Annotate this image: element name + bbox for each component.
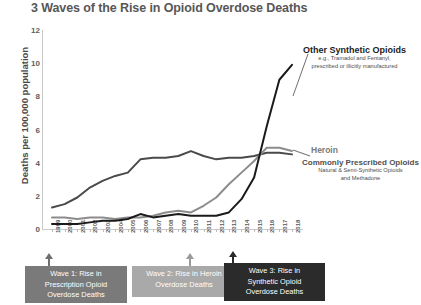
x-tick-mark bbox=[241, 229, 242, 232]
wave-2-banner: Wave 2: Rise in Heroin Overdose Deaths bbox=[132, 266, 236, 297]
y-tick-label: 6 bbox=[18, 125, 40, 134]
wave-2-arrow bbox=[185, 253, 195, 267]
y-axis-ticks: 024681012 bbox=[14, 0, 40, 305]
x-tick-mark bbox=[153, 229, 154, 232]
y-tick-label: 0 bbox=[18, 225, 40, 234]
wave-1-line1: Wave 1: Rise in bbox=[27, 269, 125, 280]
annotation-subtitle-line1: Natural & Semi-Synthetic Opioids bbox=[302, 167, 419, 175]
x-tick-mark bbox=[140, 229, 141, 232]
annotation-title: Commonly Prescribed Opioids bbox=[302, 158, 419, 167]
wave-1-banner: Wave 1: Rise in Prescription Opioid Over… bbox=[25, 266, 127, 303]
opioid-overdose-chart: 3 Waves of the Rise in Opioid Overdose D… bbox=[0, 0, 421, 305]
leader-line-synthetic bbox=[290, 52, 310, 98]
y-tick-label: 8 bbox=[18, 92, 40, 101]
annotation-subtitle-line2: prescribed or illicitly manufactured bbox=[303, 63, 406, 71]
annotation-other-synthetic-opioids: Other Synthetic Opioids e.g., Tramadol a… bbox=[303, 45, 406, 70]
series-lines bbox=[44, 30, 302, 229]
wave-1-arrow bbox=[44, 253, 54, 267]
x-tick-mark bbox=[216, 229, 217, 232]
y-axis-line bbox=[42, 30, 43, 230]
x-tick-mark bbox=[229, 229, 230, 232]
wave-3-line1: Wave 3: Rise in bbox=[226, 266, 323, 277]
annotation-subtitle-line1: e.g., Tramadol and Fentanyl, bbox=[303, 55, 406, 63]
x-tick-mark bbox=[65, 229, 66, 232]
x-tick-mark bbox=[115, 229, 116, 232]
x-tick-mark bbox=[103, 229, 104, 232]
wave-3-line3: Overdose Deaths bbox=[226, 287, 323, 298]
y-tick-label: 12 bbox=[18, 26, 40, 35]
x-tick-mark bbox=[292, 229, 293, 232]
annotation-title: Heroin bbox=[311, 145, 338, 155]
x-tick-mark bbox=[128, 229, 129, 232]
y-tick-label: 10 bbox=[18, 59, 40, 68]
wave-2-line2: Overdose Deaths bbox=[134, 280, 234, 291]
x-tick-mark bbox=[191, 229, 192, 232]
x-tick-mark bbox=[77, 229, 78, 232]
annotation-heroin: Heroin bbox=[311, 145, 338, 155]
plot-area: 1999200020012002200320042005200620072008… bbox=[44, 30, 302, 229]
x-tick-mark bbox=[90, 229, 91, 232]
x-tick-mark bbox=[166, 229, 167, 232]
wave-3-banner: Wave 3: Rise in Synthetic Opioid Overdos… bbox=[224, 263, 325, 301]
wave-2-line1: Wave 2: Rise in Heroin bbox=[134, 269, 234, 280]
annotation-title: Other Synthetic Opioids bbox=[303, 45, 406, 55]
annotation-subtitle-line2: and Methadone bbox=[302, 175, 419, 183]
x-tick-mark bbox=[267, 229, 268, 232]
y-tick-label: 4 bbox=[18, 158, 40, 167]
x-tick-mark bbox=[254, 229, 255, 232]
annotation-commonly-prescribed-opioids: Commonly Prescribed Opioids Natural & Se… bbox=[302, 158, 419, 182]
wave-3-line2: Synthetic Opioid bbox=[226, 277, 323, 288]
x-tick-mark bbox=[279, 229, 280, 232]
wave-1-line2: Prescription Opioid bbox=[27, 280, 125, 291]
x-tick-mark bbox=[204, 229, 205, 232]
x-tick-mark bbox=[178, 229, 179, 232]
y-tick-label: 2 bbox=[18, 191, 40, 200]
chart-title: 3 Waves of the Rise in Opioid Overdose D… bbox=[31, 1, 307, 15]
series-line-other-synthetic-opioids bbox=[52, 65, 292, 224]
wave-1-line3: Overdose Deaths bbox=[27, 290, 125, 301]
series-line-heroin bbox=[52, 148, 292, 219]
x-tick-mark bbox=[52, 229, 53, 232]
